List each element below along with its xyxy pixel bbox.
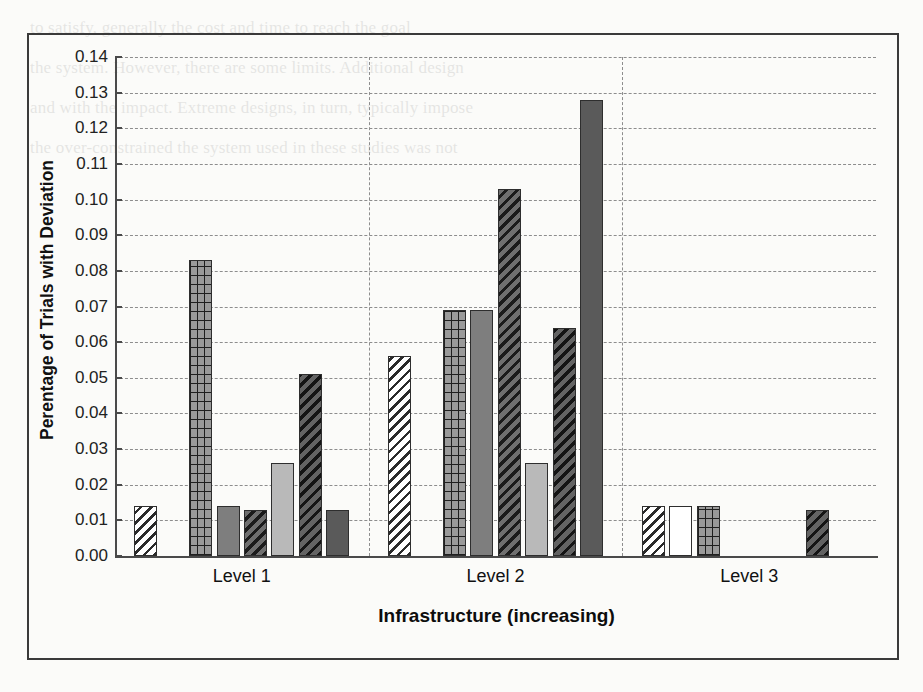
y-axis-tick-mark xyxy=(115,519,122,521)
bar xyxy=(697,506,720,556)
y-axis-tick-label: 0.14 xyxy=(48,47,108,67)
y-axis-tick-mark xyxy=(115,377,122,379)
bar xyxy=(525,463,548,556)
y-axis-tick-label: 0.10 xyxy=(48,190,108,210)
bar xyxy=(580,100,603,556)
gridline-horizontal xyxy=(115,93,876,94)
y-axis-tick-label: 0.00 xyxy=(48,546,108,566)
y-axis-tick-mark xyxy=(115,234,122,236)
y-axis-tick-label: 0.07 xyxy=(48,297,108,317)
y-axis-tick-mark xyxy=(115,448,122,450)
bar xyxy=(217,506,240,556)
bar xyxy=(271,463,294,556)
gridline-horizontal xyxy=(115,128,876,129)
y-axis-tick-label: 0.05 xyxy=(48,368,108,388)
bar xyxy=(189,260,212,556)
y-axis-tick-mark xyxy=(115,163,122,165)
gridline-horizontal xyxy=(115,164,876,165)
category-divider-line xyxy=(622,57,623,556)
y-axis-tick-label: 0.12 xyxy=(48,118,108,138)
y-axis-tick-mark xyxy=(115,341,122,343)
y-axis-tick-mark xyxy=(115,56,122,58)
bar xyxy=(806,510,829,556)
y-axis-tick-mark xyxy=(115,484,122,486)
x-axis-category-label: Level 3 xyxy=(720,566,778,587)
gridline-horizontal xyxy=(115,413,876,414)
plot-inner xyxy=(115,57,876,556)
y-axis-tick-mark xyxy=(115,92,122,94)
bar xyxy=(388,356,411,556)
plot-area xyxy=(115,57,876,556)
y-axis-tick-label: 0.08 xyxy=(48,261,108,281)
y-axis-tick-labels: 0.140.130.120.110.100.090.080.070.060.05… xyxy=(44,0,108,692)
gridline-horizontal xyxy=(115,307,876,308)
gridline-horizontal xyxy=(115,449,876,450)
bar xyxy=(642,506,665,556)
y-axis-tick-label: 0.01 xyxy=(48,510,108,530)
gridline-horizontal xyxy=(115,342,876,343)
gridline-horizontal xyxy=(115,485,876,486)
bar xyxy=(244,510,267,556)
bar xyxy=(134,506,157,556)
y-axis-tick-mark xyxy=(115,127,122,129)
y-axis-tick-label: 0.06 xyxy=(48,332,108,352)
y-axis-tick-mark xyxy=(115,555,122,557)
y-axis-tick-label: 0.09 xyxy=(48,225,108,245)
bar xyxy=(498,189,521,556)
gridline-horizontal xyxy=(115,57,876,58)
y-axis-tick-label: 0.13 xyxy=(48,83,108,103)
y-axis-tick-label: 0.03 xyxy=(48,439,108,459)
x-axis-line xyxy=(115,556,878,558)
gridline-horizontal xyxy=(115,235,876,236)
x-axis-category-label: Level 2 xyxy=(466,566,524,587)
y-axis-tick-mark xyxy=(115,412,122,414)
y-axis-tick-mark xyxy=(115,306,122,308)
bar xyxy=(553,328,576,556)
bar xyxy=(299,374,322,556)
y-axis-tick-label: 0.02 xyxy=(48,475,108,495)
y-axis-tick-label: 0.04 xyxy=(48,403,108,423)
y-axis-tick-label: 0.11 xyxy=(48,154,108,174)
x-axis-title: Infrastructure (increasing) xyxy=(115,605,878,627)
category-divider-line xyxy=(369,57,370,556)
gridline-horizontal xyxy=(115,271,876,272)
y-axis-tick-mark xyxy=(115,199,122,201)
gridline-horizontal xyxy=(115,200,876,201)
bar xyxy=(470,310,493,556)
y-axis-tick-mark xyxy=(115,270,122,272)
bar xyxy=(669,506,692,556)
bar xyxy=(443,310,466,556)
gridline-horizontal xyxy=(115,378,876,379)
x-axis-category-label: Level 1 xyxy=(213,566,271,587)
bar xyxy=(326,510,349,556)
chart-page: to satisfy, generally the cost and time … xyxy=(0,0,923,692)
